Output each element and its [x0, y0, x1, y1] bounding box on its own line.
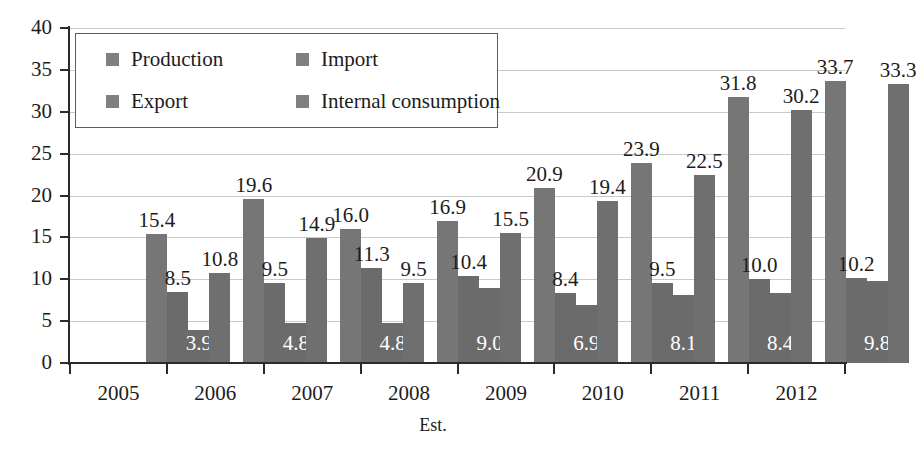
bar [146, 234, 167, 363]
bar [749, 279, 770, 363]
bar-value-label: 15.5 [488, 209, 534, 230]
legend-item-production[interactable]: Production [106, 49, 296, 70]
y-axis-tick-label: 0 [0, 352, 52, 373]
bar [631, 163, 652, 363]
bar [243, 199, 264, 363]
legend-label: Import [321, 49, 378, 70]
bar [458, 276, 479, 363]
legend-swatch-icon [106, 95, 119, 108]
bar [728, 97, 749, 363]
legend-label: Production [131, 49, 223, 70]
y-axis-tick-label: 20 [0, 185, 52, 206]
bar [306, 238, 327, 363]
bar [403, 283, 424, 363]
bar [437, 221, 458, 363]
bar [791, 110, 812, 363]
y-axis-tick-label: 30 [0, 101, 52, 122]
y-axis-tick-label: 25 [0, 143, 52, 164]
bar-value-label: 19.4 [584, 177, 630, 198]
x-axis-tick [844, 363, 846, 374]
x-axis-tick-label: 2008 [361, 381, 458, 405]
y-axis-tick-label: 35 [0, 59, 52, 80]
y-axis-tick [60, 153, 70, 155]
bar [694, 175, 715, 363]
y-axis-tick [60, 236, 70, 238]
bar-value-label: 33.3 [875, 60, 921, 81]
x-axis-title: Est. [0, 415, 866, 436]
x-axis-tick-label: 2012 [748, 381, 845, 405]
x-axis-tick-label: 2007 [264, 381, 361, 405]
legend-item-import[interactable]: Import [296, 49, 500, 70]
x-axis-tick-label: 2006 [167, 381, 264, 405]
legend: Production Import Export Internal consum… [75, 33, 498, 128]
x-axis-tick [166, 363, 168, 374]
bar [888, 84, 909, 363]
legend-label: Internal consumption [321, 91, 500, 112]
x-axis-tick [553, 363, 555, 374]
legend-item-internal-consumption[interactable]: Internal consumption [296, 91, 500, 112]
bar [846, 278, 867, 363]
x-axis-tick-label: 2009 [458, 381, 555, 405]
x-axis-tick [747, 363, 749, 374]
y-axis-tick-label: 15 [0, 226, 52, 247]
bar [770, 293, 791, 363]
x-axis-tick [457, 363, 459, 374]
y-axis-tick [60, 69, 70, 71]
bar [382, 323, 403, 363]
x-axis-tick-label: 2005 [70, 381, 167, 405]
bar-value-label: 23.9 [618, 139, 664, 160]
bar-value-label: 20.9 [521, 164, 567, 185]
y-axis-tick [60, 320, 70, 322]
y-axis-tick [60, 195, 70, 197]
bar [479, 288, 500, 363]
legend-swatch-icon [106, 53, 119, 66]
bar [576, 305, 597, 363]
gridline [70, 28, 845, 29]
bar [340, 229, 361, 363]
legend-item-export[interactable]: Export [106, 91, 296, 112]
bar-value-label: 15.4 [134, 210, 180, 231]
bar [264, 283, 285, 363]
bar [285, 323, 306, 363]
x-axis-tick [650, 363, 652, 374]
bar-value-label: 16.0 [328, 205, 374, 226]
bar-value-label: 33.7 [812, 57, 858, 78]
x-axis-tick [360, 363, 362, 374]
bar [361, 268, 382, 363]
x-axis-tick [263, 363, 265, 374]
bar-value-label: 10.8 [197, 249, 243, 270]
bar [867, 281, 888, 363]
bar [825, 81, 846, 363]
bar [597, 201, 618, 363]
bar [534, 188, 555, 363]
bar-value-label: 31.8 [715, 73, 761, 94]
bar-value-label: 16.9 [425, 197, 471, 218]
y-axis-tick-label: 40 [0, 17, 52, 38]
y-axis-tick [60, 278, 70, 280]
x-axis-tick-label: 2010 [554, 381, 651, 405]
y-axis-tick [60, 111, 70, 113]
y-axis-tick [60, 27, 70, 29]
bar [188, 330, 209, 363]
x-axis-tick-label: 2011 [651, 381, 748, 405]
bar-value-label: 30.2 [778, 86, 824, 107]
bar [673, 295, 694, 363]
bar [209, 273, 230, 363]
y-axis-tick-label: 10 [0, 268, 52, 289]
x-axis-tick [69, 363, 71, 374]
y-axis-tick-label: 5 [0, 310, 52, 331]
legend-swatch-icon [296, 95, 309, 108]
bar-value-label: 19.6 [231, 175, 277, 196]
legend-label: Export [131, 91, 188, 112]
bar-value-label: 14.9 [294, 214, 340, 235]
bar [652, 283, 673, 363]
bar [500, 233, 521, 363]
bar-value-label: 9.5 [391, 259, 437, 280]
bar [167, 292, 188, 363]
bar [555, 293, 576, 363]
legend-swatch-icon [296, 53, 309, 66]
